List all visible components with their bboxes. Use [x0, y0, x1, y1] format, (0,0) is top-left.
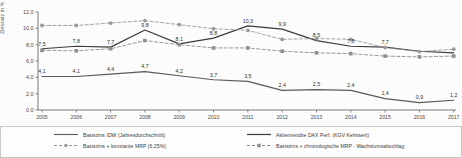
svg-text:4,1: 4,1	[73, 68, 80, 74]
dashed-square-line-swatch	[246, 142, 272, 149]
series-layer	[40, 19, 456, 103]
svg-text:9,9: 9,9	[278, 21, 285, 27]
svg-text:2008: 2008	[139, 114, 151, 120]
legend-item-chronologische-mrp[interactable]: Basiszins + chronologische MRP - Wachstu…	[240, 140, 457, 151]
svg-text:2012: 2012	[276, 114, 288, 120]
svg-text:7,7: 7,7	[107, 39, 114, 45]
svg-text:7,7: 7,7	[381, 39, 388, 45]
svg-text:2006: 2006	[71, 114, 83, 120]
svg-text:3,5: 3,5	[244, 73, 251, 79]
y-axis-ticks: 0,02,04,06,08,010,012,0	[23, 9, 38, 113]
svg-text:10,3: 10,3	[243, 18, 253, 24]
svg-text:2007: 2007	[105, 114, 117, 120]
chart-container: Zinssatz in % 0,02,04,06,08,010,012,0 20…	[0, 0, 462, 158]
legend-row-2: Basiszins + konstante MRP (6,25%) Basisz…	[5, 140, 457, 151]
svg-text:2013: 2013	[311, 114, 323, 120]
chart-legend: Basiszins IDW (Jahresdurchschnitt) Aktie…	[0, 126, 462, 158]
svg-text:8,8: 8,8	[210, 30, 217, 36]
svg-text:3,7: 3,7	[210, 72, 217, 78]
svg-text:2,4: 2,4	[347, 82, 354, 88]
svg-text:2010: 2010	[208, 114, 220, 120]
plot-area: Zinssatz in % 0,02,04,06,08,010,012,0 20…	[0, 0, 462, 128]
svg-text:10,0: 10,0	[23, 25, 34, 31]
svg-text:7,8: 7,8	[347, 38, 354, 44]
svg-text:1,2: 1,2	[450, 92, 457, 98]
svg-text:7,5: 7,5	[38, 41, 45, 47]
svg-text:2014: 2014	[345, 114, 357, 120]
svg-text:2,0: 2,0	[26, 91, 34, 97]
svg-text:8,0: 8,0	[26, 42, 34, 48]
svg-text:4,4: 4,4	[107, 66, 114, 72]
legend-label: Aktienrendite DAX Perf. (KGV Kehrwert)	[276, 132, 369, 138]
svg-text:7,8: 7,8	[73, 38, 80, 44]
svg-text:2011: 2011	[242, 114, 253, 120]
svg-text:2,5: 2,5	[313, 81, 320, 87]
legend-item-aktienrendite-dax[interactable]: Aktienrendite DAX Perf. (KGV Kehrwert)	[240, 129, 457, 140]
dashed-circle-line-swatch	[53, 142, 79, 149]
svg-text:0,0: 0,0	[26, 107, 34, 113]
plot-svg: 0,02,04,06,08,010,012,0 2005200620072008…	[0, 0, 462, 128]
svg-text:2016: 2016	[414, 114, 426, 120]
legend-label: Basiszins + chronologische MRP - Wachstu…	[276, 143, 404, 149]
svg-text:2009: 2009	[173, 114, 185, 120]
svg-text:8,5: 8,5	[313, 32, 320, 38]
svg-text:0,9: 0,9	[416, 94, 423, 100]
legend-label: Basiszins IDW (Jahresdurchschnitt)	[83, 132, 165, 138]
solid-line-swatch	[246, 131, 272, 138]
legend-item-basiszins-idw[interactable]: Basiszins IDW (Jahresdurchschnitt)	[5, 129, 240, 140]
svg-text:4,7: 4,7	[141, 63, 148, 69]
legend-label: Basiszins + konstante MRP (6,25%)	[83, 143, 166, 149]
legend-row-1: Basiszins IDW (Jahresdurchschnitt) Aktie…	[5, 129, 457, 140]
legend-item-konstante-mrp[interactable]: Basiszins + konstante MRP (6,25%)	[5, 140, 240, 151]
solid-line-swatch	[53, 131, 79, 138]
svg-text:2,4: 2,4	[278, 82, 285, 88]
svg-text:2005: 2005	[36, 114, 48, 120]
y-axis-label: Zinssatz in %	[0, 2, 5, 34]
svg-text:9,8: 9,8	[141, 22, 148, 28]
svg-text:2015: 2015	[379, 114, 391, 120]
svg-text:2017: 2017	[448, 114, 460, 120]
svg-text:4,0: 4,0	[26, 74, 34, 80]
svg-text:4,1: 4,1	[38, 68, 45, 74]
svg-text:8,1: 8,1	[176, 36, 183, 42]
svg-text:6,0: 6,0	[26, 58, 34, 64]
x-axis-ticks: 2005200620072008200920102011201220132014…	[36, 110, 459, 120]
svg-text:12,0: 12,0	[23, 9, 34, 15]
svg-text:4,2: 4,2	[176, 68, 183, 74]
svg-text:1,4: 1,4	[381, 90, 388, 96]
